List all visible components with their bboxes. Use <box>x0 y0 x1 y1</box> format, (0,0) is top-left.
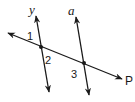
label-line-y: y <box>27 2 35 17</box>
label-angle-3: 3 <box>71 68 77 80</box>
diagram-canvas: y a P 1 2 3 <box>0 0 135 102</box>
label-line-p: P <box>125 74 133 88</box>
geometry-diagram: y a P 1 2 3 <box>0 0 135 102</box>
line-a <box>76 17 89 95</box>
intersection-point-a-p <box>82 61 86 65</box>
label-angle-2: 2 <box>45 54 51 66</box>
label-angle-1: 1 <box>27 30 33 42</box>
intersection-point-y-p <box>39 45 43 49</box>
line-p-transversal <box>8 33 122 79</box>
label-line-a: a <box>68 3 75 18</box>
